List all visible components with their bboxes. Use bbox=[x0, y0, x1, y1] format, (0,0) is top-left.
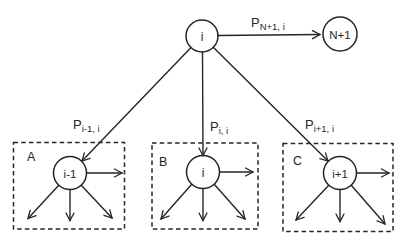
edge-label-p-c-sub: i+1, i bbox=[314, 123, 334, 134]
edge-label-p-b: Pi, i bbox=[210, 119, 228, 136]
node-exit-label: N+1 bbox=[329, 29, 350, 41]
box-b-letter: B bbox=[159, 155, 167, 169]
node-top-i-label: i bbox=[201, 30, 204, 44]
edge-label-p-exit-sub: N+1, i bbox=[260, 21, 285, 32]
box-c-letter: C bbox=[293, 154, 302, 168]
box-a-down-right-arrow bbox=[82, 186, 113, 219]
edge-label-p-c: Pi+1, i bbox=[305, 117, 334, 134]
edge-label-p-c-base: P bbox=[305, 117, 314, 132]
box-c-down-right-arrow bbox=[352, 186, 386, 225]
edge-label-p-a-base: P bbox=[73, 117, 82, 132]
box-b-down-right-arrow bbox=[215, 185, 246, 220]
edge-i-to-box-c-arrow bbox=[214, 48, 329, 162]
node-b-i-label: i bbox=[202, 166, 205, 180]
diagram-canvas: i N+1 i-1 i i+1 A B C PN+1, i Pi-1, i Pi… bbox=[0, 0, 411, 244]
edge-label-p-exit: PN+1, i bbox=[251, 15, 285, 32]
box-a-down-left-arrow bbox=[28, 186, 59, 219]
edge-label-p-a: Pi-1, i bbox=[73, 117, 100, 134]
box-c-down-left-arrow bbox=[296, 186, 329, 221]
box-a-letter: A bbox=[27, 150, 36, 164]
edge-label-p-b-sub: i, i bbox=[219, 125, 229, 136]
node-i-plus-1-label: i+1 bbox=[332, 168, 348, 180]
edge-i-to-exit-arrow bbox=[218, 35, 320, 36]
edge-i-to-box-a-arrow bbox=[82, 48, 191, 162]
edge-label-p-a-sub: i-1, i bbox=[82, 123, 100, 134]
edge-label-p-b-base: P bbox=[210, 119, 219, 134]
edge-label-p-exit-base: P bbox=[251, 15, 260, 30]
box-b-down-left-arrow bbox=[161, 185, 192, 220]
node-i-minus-1-label: i-1 bbox=[64, 168, 77, 180]
edge-i-to-box-b-arrow bbox=[203, 52, 204, 156]
transition-diagram: i N+1 i-1 i i+1 A B C PN+1, i Pi-1, i Pi… bbox=[0, 0, 411, 244]
